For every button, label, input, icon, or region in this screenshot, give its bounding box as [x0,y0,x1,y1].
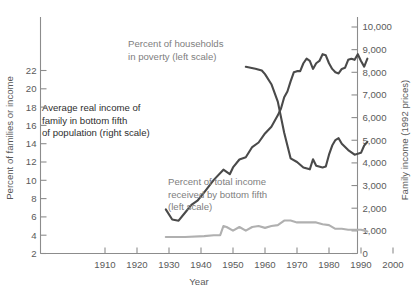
right-tick-label: 2,000 [363,203,387,214]
income-label: Average real income offamily in bottom f… [42,102,150,138]
income-label-line: family in bottom fifth [42,115,127,126]
share-label-line: Percent of total income [168,176,266,187]
left-tick-label: 20 [26,83,37,94]
share-label: Percent of total incomereceived by botto… [168,176,267,212]
left-tick-label: 22 [26,65,37,76]
x-tick-label: 1920 [126,259,147,270]
chart-annotations: Percent of householdsin poverty (left sc… [42,38,267,212]
y-left-axis-title: Percent of families or income [4,76,15,200]
left-tick-label: 6 [31,211,36,222]
left-tick-label: 18 [26,102,37,113]
left-tick-label: 12 [26,156,37,167]
income-label-line: of population (right scale) [42,127,150,138]
poverty-label-line: Percent of households [128,38,224,49]
right-tick-label: 10,000 [363,21,392,32]
x-tick-label: 1930 [158,259,179,270]
x-tick-label: 1980 [318,259,339,270]
right-tick-label: 7,000 [363,89,387,100]
right-tick-label: 0 [363,248,368,259]
x-tick-label: 2000 [382,259,403,270]
right-tick-label: 6,000 [363,112,387,123]
right-tick-label: 4,000 [363,157,387,168]
series-line-1 [246,67,368,169]
chart-svg: 246810121416182022 01,0002,0003,0004,000… [0,0,417,291]
left-tick-label: 10 [26,175,37,186]
series-line-2 [166,221,368,237]
x-tick-label: 1940 [190,259,211,270]
x-tick-label: 1910 [94,259,115,270]
x-tick-label: 1970 [286,259,307,270]
right-tick-label: 8,000 [363,67,387,78]
share-label-line: received by bottom fifth [168,189,267,200]
chart-container: 246810121416182022 01,0002,0003,0004,000… [0,0,417,291]
left-tick-label: 2 [31,248,36,259]
left-tick-label: 14 [26,138,37,149]
poverty-label: Percent of householdsin poverty (left sc… [128,38,224,62]
income-label-line: Average real income of [42,102,141,113]
poverty-label-line: in poverty (left scale) [128,51,217,62]
x-tick-label: 1960 [254,259,275,270]
left-tick-label: 4 [31,230,37,241]
x-tick-label: 1950 [222,259,243,270]
right-tick-label: 9,000 [363,44,387,55]
left-tick-label: 8 [31,193,36,204]
right-tick-label: 3,000 [363,180,387,191]
share-label-line: (left scale) [168,201,212,212]
x-axis: 1910192019301940195019601970198019902000 [41,248,404,270]
x-axis-title: Year [189,276,209,287]
left-tick-label: 16 [26,120,37,131]
y-right-axis-title: Family income (1992 prices) [399,80,410,201]
x-tick-label: 1990 [350,259,371,270]
